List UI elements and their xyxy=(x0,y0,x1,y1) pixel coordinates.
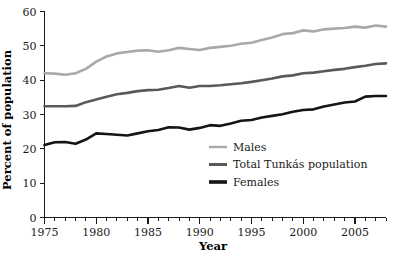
series-line-males xyxy=(45,26,387,75)
chart-figure: 0102030405060 19751980198519901995200020… xyxy=(0,0,394,256)
x-tick-label: 2005 xyxy=(341,226,369,239)
x-axis-title: Year xyxy=(198,239,228,253)
y-tick-label: 50 xyxy=(23,40,37,53)
x-tick-label: 1975 xyxy=(31,226,59,239)
x-tick-label: 1990 xyxy=(186,226,214,239)
y-axis-title: Percent of population xyxy=(0,49,14,190)
x-tick-label: 1980 xyxy=(82,226,110,239)
y-tick-label: 10 xyxy=(23,177,37,190)
legend-label: Females xyxy=(233,176,280,189)
x-tick-label: 2000 xyxy=(289,226,317,239)
x-tick-label: 1995 xyxy=(237,226,265,239)
y-tick-label: 60 xyxy=(23,6,37,19)
y-tick-label: 40 xyxy=(23,74,37,87)
legend-label: Males xyxy=(233,141,267,154)
y-tick-label: 20 xyxy=(23,143,37,156)
y-axis-ticks: 0102030405060 xyxy=(23,6,45,225)
chart-legend: MalesTotal Tunkás populationFemales xyxy=(209,141,367,189)
series-line-total-tunk-s-population xyxy=(45,63,387,106)
series-line-females xyxy=(45,96,387,145)
x-axis-ticks: 1975198019851990199520002005 xyxy=(31,218,387,239)
y-tick-label: 0 xyxy=(30,212,37,225)
x-tick-label: 1985 xyxy=(134,226,162,239)
line-chart: 0102030405060 19751980198519901995200020… xyxy=(0,0,394,256)
y-tick-label: 30 xyxy=(23,109,37,122)
data-series-group xyxy=(45,26,387,145)
legend-label: Total Tunkás population xyxy=(233,158,367,171)
